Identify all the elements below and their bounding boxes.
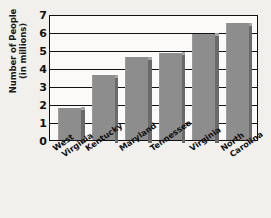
bar-slot — [120, 16, 154, 140]
y-axis-tick-labels: 01234567 — [30, 15, 47, 141]
x-slot: Maryland — [120, 141, 154, 211]
x-slot: Kentucky — [86, 141, 120, 211]
y-tick-label: 7 — [30, 10, 47, 21]
x-slot: Tennessee — [153, 141, 187, 211]
y-tick-label: 1 — [30, 118, 47, 129]
x-slot: NorthCarolina — [221, 141, 255, 211]
bar[interactable] — [192, 34, 215, 140]
y-tick-label: 5 — [30, 46, 47, 57]
x-axis-tick-labels: WestVirginiaKentuckyMarylandTennesseeVir… — [49, 141, 258, 211]
y-tick-label: 0 — [30, 136, 47, 147]
y-axis-title: Number of People (in millions) — [5, 0, 31, 107]
y-axis-title-line1: Number of People — [8, 9, 18, 94]
x-slot: WestVirginia — [52, 141, 86, 211]
bar-slot — [53, 16, 87, 140]
y-tick-label: 6 — [30, 28, 47, 39]
bar[interactable] — [226, 23, 249, 140]
y-axis-title-line2: (in millions) — [18, 23, 28, 79]
bar-slot — [221, 16, 255, 140]
x-slot: Virginia — [187, 141, 221, 211]
bar-chart: Number of People (in millions) 01234567 … — [0, 0, 271, 218]
bar-slot — [187, 16, 221, 140]
y-tick-label: 3 — [30, 82, 47, 93]
y-tick-label: 4 — [30, 64, 47, 75]
y-tick-label: 2 — [30, 100, 47, 111]
